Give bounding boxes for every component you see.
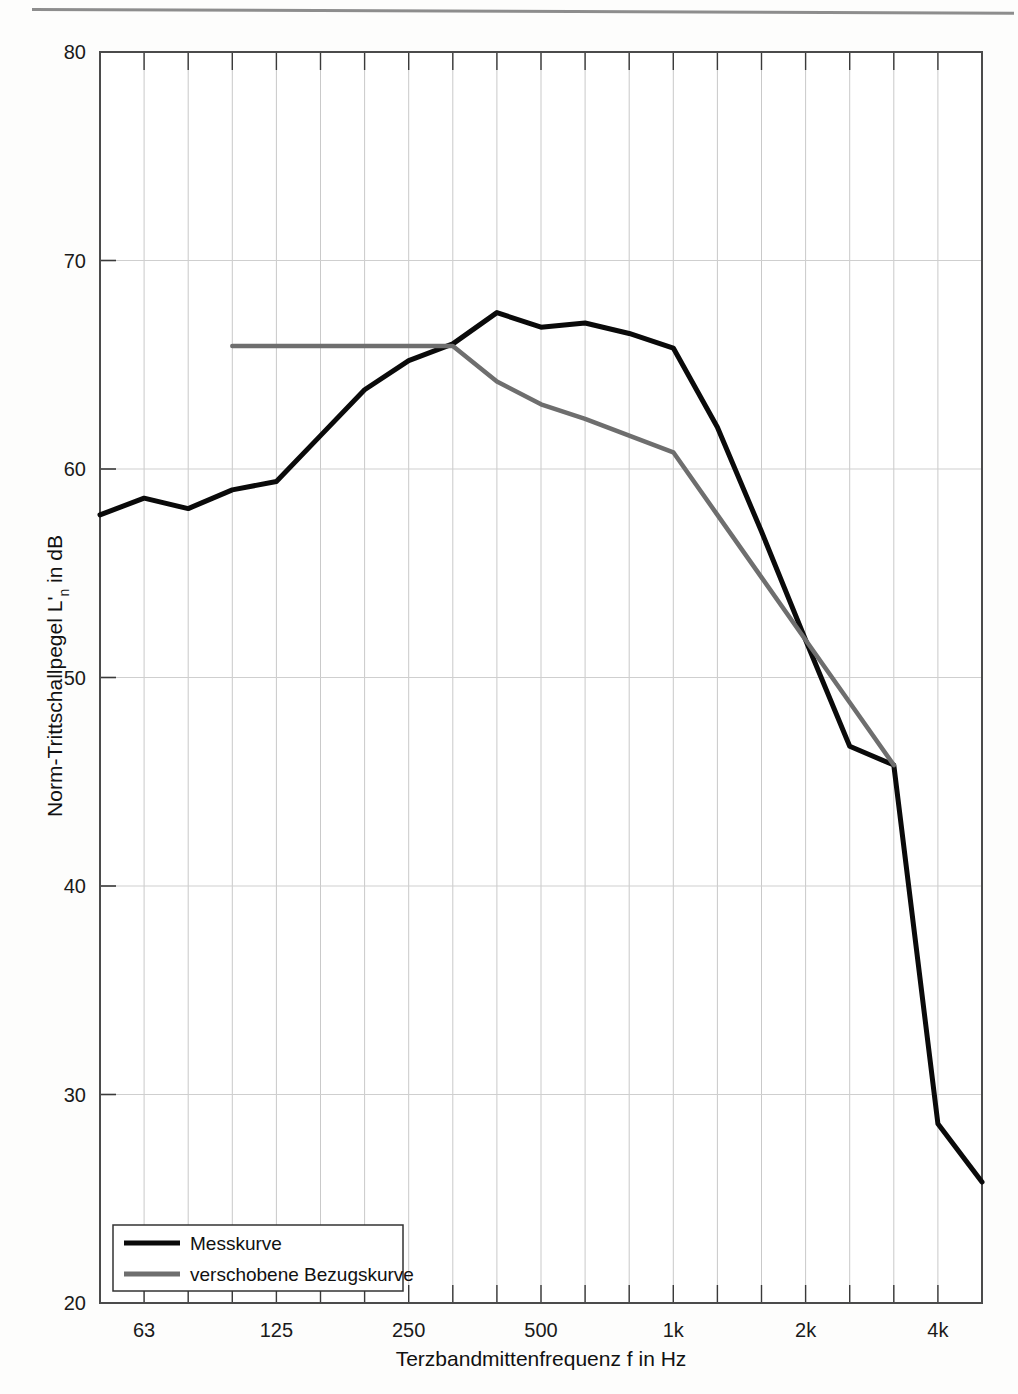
legend: Messkurve verschobene Bezugskurve — [113, 1225, 414, 1291]
y-axis-title-tail: in dB — [43, 535, 66, 589]
y-tick-label: 40 — [64, 875, 86, 897]
x-tick-label: 2k — [795, 1319, 817, 1341]
y-tick-label: 30 — [64, 1084, 86, 1106]
legend-label-messkurve: Messkurve — [190, 1233, 282, 1254]
legend-label-bezugskurve: verschobene Bezugskurve — [190, 1264, 414, 1285]
x-tick-label: 4k — [927, 1319, 949, 1341]
x-axis-tick-labels: 631252505001k2k4k — [133, 1319, 949, 1341]
x-tick-label: 1k — [663, 1319, 685, 1341]
y-axis-tick-labels: 20304050607080 — [64, 41, 86, 1314]
x-tick-label: 500 — [524, 1319, 557, 1341]
x-tick-label: 250 — [392, 1319, 425, 1341]
x-axis-title: Terzbandmittenfrequenz f in Hz — [396, 1347, 687, 1370]
y-axis-title-main: Norm-Trittschallpegel L' — [43, 597, 66, 817]
x-tick-label: 63 — [133, 1319, 155, 1341]
y-tick-label: 70 — [64, 250, 86, 272]
y-tick-label: 80 — [64, 41, 86, 63]
y-axis-title-subscript: n — [56, 589, 72, 597]
trittschall-line-chart: 20304050607080 631252505001k2k4k Terzban… — [0, 0, 1018, 1394]
y-tick-label: 50 — [64, 667, 86, 689]
y-tick-label: 20 — [64, 1292, 86, 1314]
y-tick-label: 60 — [64, 458, 86, 480]
chart-page: 20304050607080 631252505001k2k4k Terzban… — [0, 0, 1018, 1394]
x-tick-label: 125 — [260, 1319, 293, 1341]
